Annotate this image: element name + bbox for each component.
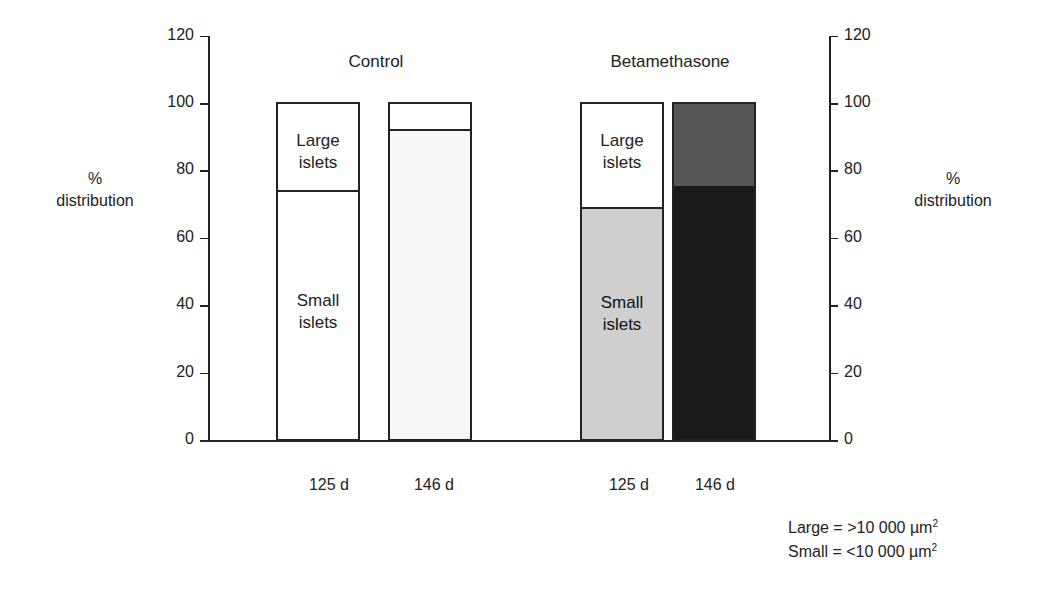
right-tick-label: 20 — [844, 363, 894, 381]
x-label-beta-125d: 125 d — [584, 476, 674, 494]
right-tick — [830, 305, 838, 307]
left-tick — [200, 170, 208, 172]
left-y-axis-label: % distribution — [40, 168, 150, 212]
large-islets-label: Largeislets — [582, 130, 662, 174]
right-tick-label: 40 — [844, 295, 894, 313]
large-islets-label: Largeislets — [278, 130, 358, 174]
right-tick-label: 120 — [844, 26, 894, 44]
x-label-control-125d: 125 d — [284, 476, 374, 494]
small-islets-label: Smallislets — [582, 292, 662, 336]
x-label-beta-146d: 146 d — [670, 476, 760, 494]
bar-split — [390, 129, 470, 131]
right-tick-label: 60 — [844, 228, 894, 246]
note-large: Large = >10 000 µm2 — [788, 514, 938, 538]
size-definition-note: Large = >10 000 µm2 Small = <10 000 µm2 — [788, 514, 938, 563]
note-small: Small = <10 000 µm2 — [788, 538, 938, 562]
right-tick-label: 100 — [844, 93, 894, 111]
left-tick — [200, 238, 208, 240]
right-tick-label: 0 — [844, 430, 894, 448]
left-tick — [200, 36, 208, 38]
bar-betamethasone-125d: Largeislets Smallislets — [580, 102, 664, 441]
left-tick-label: 100 — [144, 93, 194, 111]
left-tick — [200, 305, 208, 307]
right-y-axis-label: % distribution — [898, 168, 1008, 212]
left-tick — [200, 440, 208, 442]
left-tick-label: 80 — [144, 160, 194, 178]
bar-split — [278, 190, 358, 192]
right-tick — [830, 170, 838, 172]
bar-control-125d: Largeislets Smallislets — [276, 102, 360, 441]
left-tick-label: 20 — [144, 363, 194, 381]
right-tick — [830, 103, 838, 105]
right-tick — [830, 373, 838, 375]
right-tick-label: 80 — [844, 160, 894, 178]
x-label-control-146d: 146 d — [389, 476, 479, 494]
left-tick-label: 40 — [144, 295, 194, 313]
left-tick-label: 120 — [144, 26, 194, 44]
left-tick — [200, 103, 208, 105]
bar-betamethasone-146d — [672, 102, 756, 441]
bar-split — [582, 207, 662, 209]
left-tick-label: 60 — [144, 228, 194, 246]
small-islets-label: Smallislets — [278, 290, 358, 334]
left-y-axis — [208, 36, 210, 441]
right-tick — [830, 36, 838, 38]
right-tick — [830, 238, 838, 240]
group-title-betamethasone: Betamethasone — [580, 52, 760, 72]
large-segment — [674, 104, 754, 186]
bar-control-146d — [388, 102, 472, 441]
group-title-control: Control — [296, 52, 456, 72]
left-tick — [200, 373, 208, 375]
large-segment — [390, 104, 470, 130]
right-tick — [830, 440, 838, 442]
left-tick-label: 0 — [144, 430, 194, 448]
